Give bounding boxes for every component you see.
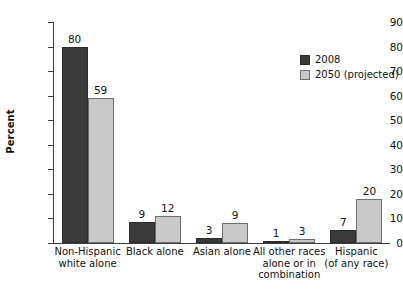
bar[interactable] [263, 241, 289, 243]
bar-value-label: 12 [153, 203, 183, 214]
x-axis-tick-label: Hispanic(of any race) [308, 246, 403, 269]
y-axis-tick [48, 96, 53, 97]
legend-label: 2008 [315, 54, 340, 65]
bar-value-label: 7 [328, 217, 358, 228]
x-axis-label-line: (of any race) [308, 258, 403, 270]
y-axis-tick [48, 218, 53, 219]
bar-value-label: 20 [354, 186, 384, 197]
bar[interactable] [155, 216, 181, 244]
bar[interactable] [356, 199, 382, 243]
bar[interactable] [129, 222, 155, 243]
legend-swatch-icon [300, 55, 310, 65]
legend-item[interactable]: 2050 (projected) [300, 69, 399, 80]
chart-legend: 20082050 (projected) [300, 54, 399, 84]
bar[interactable] [289, 239, 315, 243]
y-axis-tick [48, 120, 53, 121]
y-axis-tick [48, 145, 53, 146]
bar-group: 912 [127, 22, 183, 243]
y-axis-tick [48, 194, 53, 195]
bar-value-label: 3 [194, 225, 224, 236]
x-axis-label-line: combination [241, 269, 337, 281]
bar-value-label: 9 [220, 210, 250, 221]
y-axis-tick [48, 47, 53, 48]
x-axis-label-line: white alone [40, 258, 136, 270]
bar-group: 39 [194, 22, 250, 243]
y-axis-title: Percent [5, 97, 16, 167]
bar[interactable] [196, 238, 222, 243]
legend-label: 2050 (projected) [315, 69, 399, 80]
y-axis-tick [48, 243, 53, 244]
bar[interactable] [62, 47, 88, 243]
bar-value-label: 80 [60, 34, 90, 45]
bar[interactable] [330, 230, 356, 243]
bar[interactable] [88, 98, 114, 243]
bar-chart: Percent 9080706050403020100 805991239137… [0, 0, 403, 297]
y-axis-tick [48, 22, 53, 23]
bar[interactable] [222, 223, 248, 243]
bar-value-label: 3 [287, 226, 317, 237]
legend-swatch-icon [300, 70, 310, 80]
y-axis-tick [48, 169, 53, 170]
bar-value-label: 59 [86, 85, 116, 96]
x-axis-label-line: Hispanic [308, 246, 403, 258]
y-axis-tick [48, 71, 53, 72]
bar-group: 8059 [60, 22, 116, 243]
x-axis-line [53, 243, 390, 244]
legend-item[interactable]: 2008 [300, 54, 399, 65]
